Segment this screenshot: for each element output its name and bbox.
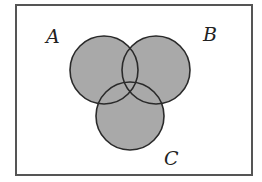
label-b: B <box>202 23 217 45</box>
venn-diagram: A B C <box>0 0 262 182</box>
label-a: A <box>44 25 60 47</box>
label-c: C <box>164 147 179 169</box>
